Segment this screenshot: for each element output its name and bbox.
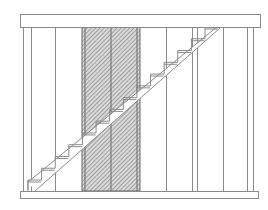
hatched-panel [82,23,140,191]
bottom-plate [21,192,259,199]
framing-drawing [0,0,268,210]
top-beam [21,15,261,28]
